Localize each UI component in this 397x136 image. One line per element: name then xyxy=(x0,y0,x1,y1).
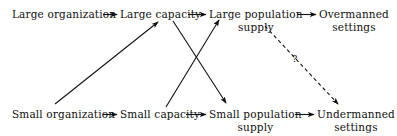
node-sublabel: supply xyxy=(209,21,303,34)
node-large-organization: Large organization xyxy=(12,8,116,21)
node-label: Large population xyxy=(209,8,303,20)
node-small-capacity: Small capacity xyxy=(120,108,200,121)
node-sublabel: supply xyxy=(209,121,302,134)
edge-large-cap-to-small-pop xyxy=(173,21,226,103)
edge-question-mark-label: ? xyxy=(292,53,297,64)
node-sublabel: settings xyxy=(319,21,389,34)
diagram-canvas: Large organization Large capacity Large … xyxy=(0,0,397,136)
node-label: Small organization xyxy=(12,108,115,120)
node-overmanned-settings: Overmanned settings xyxy=(319,8,389,33)
node-label: Large organization xyxy=(12,8,116,20)
node-large-population-supply: Large population supply xyxy=(209,8,303,33)
edge-small-cap-to-large-pop xyxy=(166,20,219,107)
node-label: Large capacity xyxy=(120,8,201,20)
node-sublabel: settings xyxy=(317,121,395,134)
node-label: Undermanned xyxy=(317,108,395,120)
node-label: Small capacity xyxy=(120,108,200,120)
node-large-capacity: Large capacity xyxy=(120,8,201,21)
node-small-organization: Small organization xyxy=(12,108,115,121)
node-small-population-supply: Small population supply xyxy=(209,108,302,133)
edge-small-org-to-large-cap xyxy=(55,22,158,104)
node-label: Small population xyxy=(209,108,302,120)
node-label: Overmanned xyxy=(319,8,389,20)
node-undermanned-settings: Undermanned settings xyxy=(317,108,395,133)
edge-large-pop-to-undermanned xyxy=(265,26,338,104)
